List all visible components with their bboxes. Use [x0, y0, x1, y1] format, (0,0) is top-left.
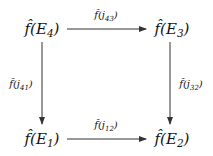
edge-label: f̂(j [94, 119, 105, 130]
edge-label: f̂(j [179, 78, 190, 89]
edge-subscript: 32 [190, 84, 199, 92]
edge-label: f̂(j [9, 78, 20, 89]
edge-subscript: 41 [20, 84, 29, 92]
node-E4: f̂(E4) [25, 20, 60, 39]
node-label: f̂(E [155, 130, 177, 148]
edge-label-j12: f̂(j12) [94, 119, 118, 133]
node-paren: ) [54, 20, 60, 38]
edge-paren: ) [29, 78, 33, 89]
edge-paren: ) [114, 9, 118, 20]
node-paren: ) [184, 20, 190, 38]
edge-paren: ) [114, 119, 118, 130]
node-label: f̂(E [25, 20, 47, 38]
node-E1: f̂(E1) [25, 130, 60, 149]
node-E3: f̂(E3) [155, 20, 190, 39]
edge-label: f̂(j [94, 9, 105, 20]
node-E2: f̂(E2) [155, 130, 190, 149]
node-paren: ) [54, 130, 60, 148]
edge-label-j43: f̂(j43) [94, 9, 118, 23]
edge-label-j32: f̂(j32) [179, 78, 203, 92]
edge-subscript: 43 [105, 15, 114, 23]
node-label: f̂(E [155, 20, 177, 38]
node-label: f̂(E [25, 130, 47, 148]
edge-paren: ) [199, 78, 203, 89]
edge-label-j41: f̂(j41) [9, 78, 33, 92]
edge-subscript: 12 [105, 125, 114, 133]
node-paren: ) [184, 130, 190, 148]
